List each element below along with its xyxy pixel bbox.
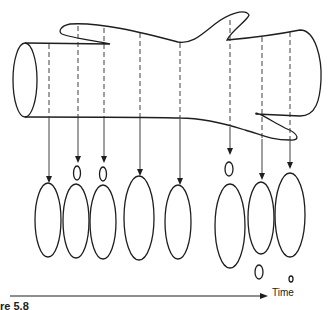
cross-section-2: [63, 184, 89, 258]
cross-section-3: [90, 185, 116, 259]
cross-section-3-satellite: [100, 167, 107, 181]
cross-section-6: [215, 184, 245, 268]
object-end-cap: [13, 43, 37, 117]
object-outline: [25, 12, 321, 140]
cross-section-5: [165, 185, 191, 259]
time-axis: [10, 293, 268, 299]
cross-section-6-satellite: [225, 162, 233, 176]
cross-section-7-satellite: [255, 265, 263, 279]
figure-caption: re 5.8: [0, 300, 29, 310]
time-arrow-icon: [260, 293, 268, 299]
cross-section-4: [124, 176, 154, 260]
cross-section-8: [275, 173, 305, 257]
projection-arrows: [46, 118, 293, 185]
branching-diagram: [0, 0, 328, 310]
cross-sections: [35, 162, 305, 282]
time-axis-label: Time: [272, 287, 294, 298]
cross-section-7: [248, 182, 274, 254]
cross-section-8-satellite: [289, 276, 293, 282]
slice-lines: [49, 20, 290, 140]
cross-section-1: [35, 183, 61, 257]
cross-section-2-satellite: [74, 166, 81, 180]
